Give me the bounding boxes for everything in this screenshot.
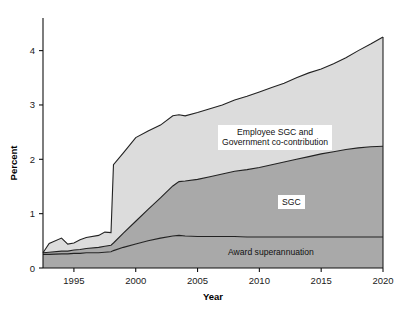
y-tick-label: 3 <box>30 99 35 110</box>
employee-sgc-label: Employee SGC and Government co-contribut… <box>218 125 332 150</box>
award-superannuation-label: Award superannuation <box>228 247 314 257</box>
y-tick-label: 1 <box>30 208 35 219</box>
y-tick-label: 4 <box>30 45 35 56</box>
x-tick-label: 2005 <box>187 275 208 286</box>
x-tick-label: 1995 <box>63 275 84 286</box>
x-axis-title: Year <box>203 291 223 302</box>
y-tick-label: 0 <box>30 263 35 274</box>
x-tick-label: 2000 <box>125 275 146 286</box>
x-tick-label: 2010 <box>249 275 270 286</box>
x-tick-label: 2015 <box>311 275 332 286</box>
chart-canvas: 01234 199520002005201020152020 Percent Y… <box>0 0 404 322</box>
superannuation-area-chart: 01234 199520002005201020152020 Percent Y… <box>0 0 404 322</box>
y-axis-title: Percent <box>8 145 19 181</box>
y-tick-label: 2 <box>30 154 35 165</box>
x-tick-label: 2020 <box>372 275 393 286</box>
sgc-label: SGC <box>278 195 305 209</box>
